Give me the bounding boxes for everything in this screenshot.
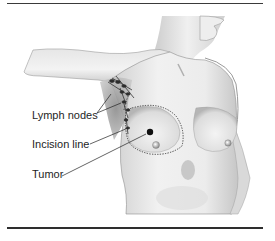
left-nipple [153,142,160,149]
label-incision-line: Incision line [32,138,89,150]
abdomen-shadow [156,186,208,210]
right-nipple [225,140,231,146]
label-tumor: Tumor [32,168,63,180]
sternum-shadow [181,160,195,180]
bottom-rule [7,227,263,229]
tumor-mass [147,129,153,135]
medical-illustration-figure: Lymph nodes Incision line Tumor [0,0,275,241]
chin [200,16,224,41]
label-lymph-nodes: Lymph nodes [32,109,98,121]
